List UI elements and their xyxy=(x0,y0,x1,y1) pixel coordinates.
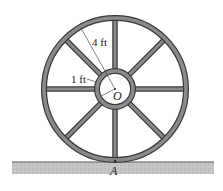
label-center-o: O xyxy=(113,89,122,103)
contact-point xyxy=(114,160,116,162)
wheel-diagram: 4 ft 1 ft O A xyxy=(0,0,223,191)
label-hub-radius: 1 ft xyxy=(71,73,86,85)
label-outer-radius: 4 ft xyxy=(92,36,107,48)
label-point-a: A xyxy=(109,164,118,178)
